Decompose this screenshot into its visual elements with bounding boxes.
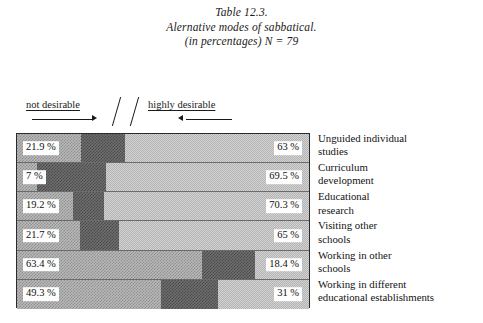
bar-segment-middle bbox=[80, 221, 119, 249]
category-label-line: Working in different bbox=[318, 278, 483, 291]
value-label-highly-desirable: 18.4 % bbox=[266, 258, 302, 272]
bar-segment-middle bbox=[37, 163, 106, 191]
value-label-not-desirable: 21.9 % bbox=[23, 141, 59, 155]
bar-segment-middle bbox=[81, 134, 125, 162]
category-label-line: research bbox=[318, 204, 483, 217]
category-label: Working in other schools bbox=[318, 248, 483, 277]
arrow-left-icon bbox=[148, 113, 215, 127]
value-label-not-desirable: 7 % bbox=[23, 170, 46, 184]
table-row: 21.7 % 65 % bbox=[17, 221, 309, 250]
bar-segment-middle bbox=[161, 280, 219, 309]
scale-header: not desirable highly desirable bbox=[0, 99, 483, 131]
category-label-line: development bbox=[318, 174, 483, 187]
table-row: 19.2 % 70.3 % bbox=[17, 192, 309, 221]
table-row: 21.9 % 63 % bbox=[17, 134, 309, 163]
scale-group-not-desirable: not desirable bbox=[26, 99, 80, 127]
bar-segment-middle bbox=[202, 251, 255, 279]
category-label-line: Unguided individual bbox=[318, 132, 483, 145]
category-label: Unguided individual studies bbox=[318, 131, 483, 160]
category-label: Visiting other schools bbox=[318, 218, 483, 247]
bar-segment-middle bbox=[73, 192, 104, 220]
value-label-not-desirable: 63.4 % bbox=[23, 258, 59, 272]
value-label-highly-desirable: 31 % bbox=[274, 288, 302, 302]
category-label-line: studies bbox=[318, 145, 483, 158]
category-label-line: Curriculum bbox=[318, 161, 483, 174]
value-label-not-desirable: 49.3 % bbox=[23, 288, 59, 302]
arrow-left-head bbox=[178, 115, 183, 121]
category-label-line: schools bbox=[318, 233, 483, 246]
category-label: Curriculum development bbox=[318, 160, 483, 189]
arrow-right-icon bbox=[26, 113, 80, 127]
table-title-block: Table 12.3. Alernative modes of sabbatic… bbox=[0, 5, 483, 49]
category-label-line: Working in other bbox=[318, 249, 483, 262]
category-label-line: schools bbox=[318, 262, 483, 275]
arrow-right-line bbox=[32, 119, 94, 120]
slash-2-icon bbox=[130, 97, 140, 126]
table-row: 49.3 % 31 % bbox=[17, 280, 309, 309]
table-number: Table 12.3. bbox=[0, 5, 483, 20]
value-label-highly-desirable: 63 % bbox=[274, 141, 302, 155]
category-label-line: educational establishments bbox=[318, 291, 483, 304]
scale-label-not-desirable: not desirable bbox=[26, 99, 80, 110]
table-caption: Alernative modes of sabbatical. bbox=[0, 20, 483, 35]
table-row: 7 % 69.5 % bbox=[17, 163, 309, 192]
value-label-highly-desirable: 69.5 % bbox=[266, 170, 302, 184]
category-label-list: Unguided individual studies Curriculum d… bbox=[318, 131, 483, 311]
table-row: 63.4 % 18.4 % bbox=[17, 251, 309, 280]
value-label-not-desirable: 19.2 % bbox=[23, 200, 59, 214]
arrow-right-head bbox=[92, 115, 97, 121]
category-label: Educational research bbox=[318, 189, 483, 218]
scale-group-highly-desirable: highly desirable bbox=[148, 99, 215, 127]
table-subcaption: (in percentages) N = 79 bbox=[0, 34, 483, 49]
scale-label-highly-desirable: highly desirable bbox=[148, 99, 215, 110]
category-label-line: Educational bbox=[318, 190, 483, 203]
value-label-highly-desirable: 70.3 % bbox=[266, 200, 302, 214]
value-label-not-desirable: 21.7 % bbox=[23, 229, 59, 243]
value-label-highly-desirable: 65 % bbox=[274, 229, 302, 243]
category-label-line: Visiting other bbox=[318, 219, 483, 232]
slash-1-icon bbox=[112, 97, 122, 126]
scale-break-slashes-icon bbox=[108, 97, 148, 127]
category-label: Working in different educational establi… bbox=[318, 277, 483, 306]
stacked-bar-chart: 21.9 % 63 % 7 % 69.5 % 19.2 % 70.3 % 21.… bbox=[16, 133, 310, 308]
arrow-left-line bbox=[186, 119, 232, 120]
